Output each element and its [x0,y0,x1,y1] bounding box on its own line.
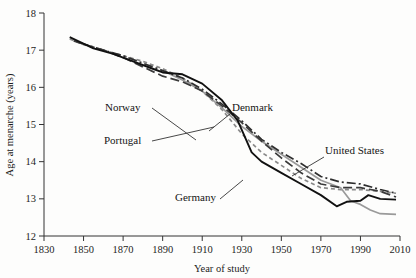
x-tick-label: 1910 [192,244,213,255]
y-tick-label: 13 [26,193,37,204]
y-tick-label: 14 [26,156,37,167]
menarche-age-line-chart: 12131415161718 1830185018701890191019301… [0,0,416,278]
x-tick-label: 2010 [390,244,411,255]
x-axis-title: Year of study [194,263,251,274]
y-tick-label: 12 [26,231,37,242]
x-tick-label: 1870 [113,244,134,255]
leader-line-norway [152,108,196,140]
y-axis-title: Age at menarche (years) [4,73,16,176]
leader-line-portugal [152,127,214,141]
x-tick-label: 1950 [271,244,292,255]
series-label-united-states: United States [325,144,384,156]
y-tick-label: 18 [26,8,37,19]
series-label-portugal: Portugal [104,134,141,146]
series-label-germany: Germany [175,191,216,203]
y-tick-label: 15 [26,119,37,130]
series-line-denmark [80,43,396,194]
x-axis-ticks: 1830185018701890191019301950197019902010 [34,236,411,255]
x-tick-label: 1890 [152,244,173,255]
x-tick-label: 1970 [310,244,331,255]
series-label-norway: Norway [105,101,141,113]
x-tick-label: 1990 [350,244,371,255]
leader-line-germany [220,180,243,199]
leader-line-denmark [209,114,230,131]
chart-container: 12131415161718 1830185018701890191019301… [0,0,416,278]
y-tick-label: 16 [26,82,37,93]
x-tick-label: 1930 [231,244,252,255]
series-line-germany [70,37,396,206]
x-tick-label: 1850 [73,244,94,255]
series-annotations: NorwayPortugalDenmarkUnited StatesGerman… [104,101,384,203]
x-tick-label: 1830 [34,244,55,255]
y-axis-ticks: 12131415161718 [26,8,45,242]
leader-line-united-states [292,157,324,176]
series-label-denmark: Denmark [232,101,273,113]
y-tick-label: 17 [26,45,37,56]
